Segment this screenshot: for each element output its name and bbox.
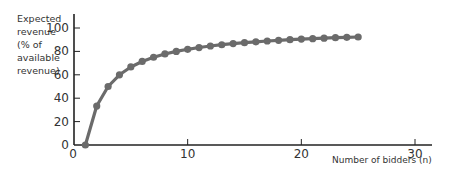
y-tick-label: 40 — [54, 91, 69, 105]
data-point — [275, 37, 282, 44]
data-point — [343, 34, 350, 41]
data-point — [332, 34, 339, 41]
data-point — [195, 44, 202, 51]
data-point — [241, 39, 248, 46]
data-point — [161, 50, 168, 57]
y-tick-label: 20 — [54, 115, 69, 129]
data-point — [82, 141, 89, 148]
x-tick-label: 20 — [294, 147, 309, 161]
data-point — [218, 41, 225, 48]
y-tick-label: 80 — [54, 44, 69, 58]
data-line — [85, 37, 358, 145]
y-tick-label: 60 — [54, 68, 69, 82]
x-tick-label: 10 — [180, 147, 195, 161]
x-tick-label: 0 — [69, 147, 77, 161]
data-point — [173, 48, 180, 55]
data-point — [105, 83, 112, 90]
data-point — [184, 46, 191, 53]
y-tick-label: 0 — [61, 138, 69, 152]
data-point — [93, 102, 100, 109]
data-point — [286, 36, 293, 43]
data-point — [207, 42, 214, 49]
x-tick-label: 30 — [407, 147, 422, 161]
data-point — [309, 35, 316, 42]
data-point — [252, 38, 259, 45]
data-point — [139, 58, 146, 65]
y-tick-label: 100 — [46, 21, 69, 35]
data-point — [230, 40, 237, 47]
data-point — [355, 33, 362, 40]
data-point — [298, 36, 305, 43]
data-point — [150, 54, 157, 61]
data-point — [116, 71, 123, 78]
data-point — [264, 37, 271, 44]
line-chart: 0204060801000102030 — [0, 0, 450, 178]
data-point — [320, 35, 327, 42]
data-point — [127, 63, 134, 70]
